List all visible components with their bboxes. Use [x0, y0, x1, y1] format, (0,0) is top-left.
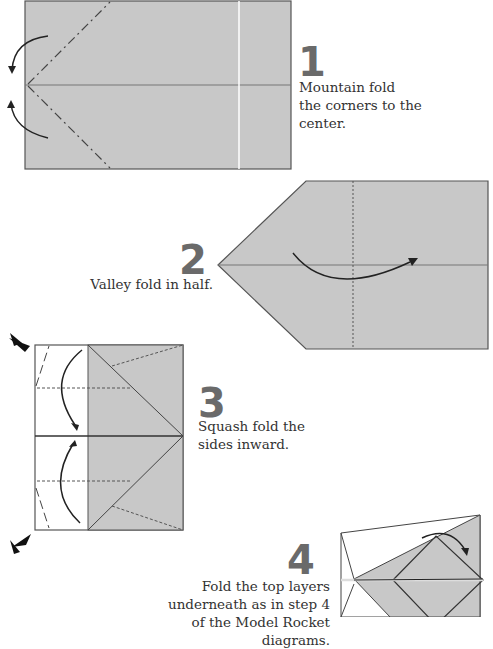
step1-diagram — [7, 1, 291, 169]
step2-number: 2 — [179, 240, 207, 280]
step4-text: Fold the top layers underneath as in ste… — [130, 577, 330, 649]
step2-diagram — [218, 181, 488, 349]
step3-text: Squash fold the sides inward. — [198, 417, 305, 453]
step4-number: 4 — [287, 540, 315, 580]
step4-diagram — [341, 515, 483, 617]
step1-number: 1 — [298, 42, 326, 82]
step2-text: Valley fold in half. — [73, 275, 213, 293]
step1-text: Mountain fold the corners to the center. — [299, 78, 422, 132]
step3-diagram — [9, 333, 183, 554]
